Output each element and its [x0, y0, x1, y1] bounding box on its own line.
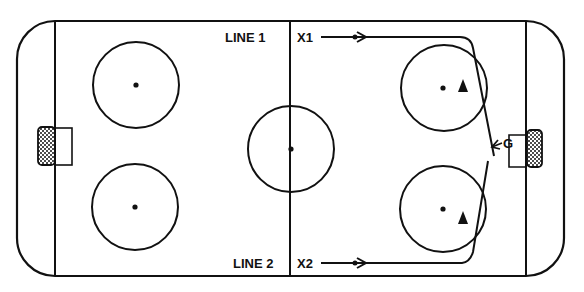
faceoff-dot-left-top [133, 82, 138, 87]
line1-label: LINE 1 [225, 30, 265, 45]
goalie-label: G [503, 136, 513, 151]
player-x1-label: X1 [297, 30, 313, 45]
x2-path-dot [354, 262, 357, 265]
line2-label: LINE 2 [233, 256, 273, 271]
player-x2-label: X2 [297, 256, 313, 271]
faceoff-dot-right-top [440, 85, 445, 90]
x1-path-dot [354, 36, 357, 39]
hockey-rink-diagram: LINE 1 LINE 2 X1 X2 G [0, 0, 584, 292]
center-dot [288, 146, 293, 151]
faceoff-dot-right-bottom [440, 206, 445, 211]
faceoff-dot-left-bottom [132, 204, 137, 209]
right-goal-net [527, 130, 542, 167]
left-goal-net [38, 127, 55, 165]
